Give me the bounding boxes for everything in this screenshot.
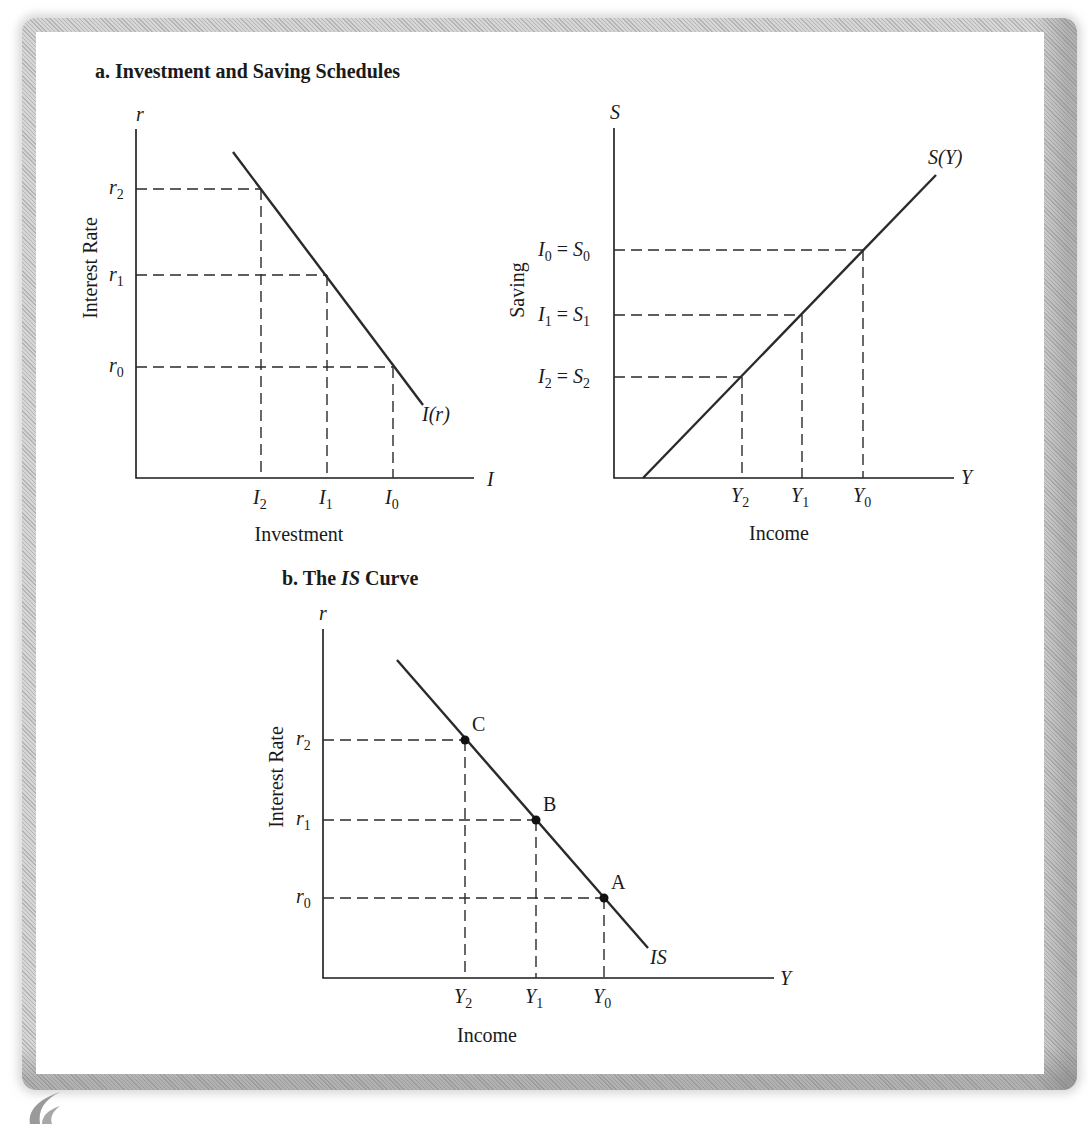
y-tick-r2: r2 xyxy=(296,727,311,753)
y-axis-label: Interest Rate xyxy=(79,217,101,319)
publisher-logo-icon xyxy=(30,1092,60,1124)
y-tick-r0: r0 xyxy=(296,885,311,911)
guide-r1-Y1 xyxy=(323,820,536,978)
panel-b-title: b. The IS Curve xyxy=(282,567,418,589)
y-tick-S2: I2 = S2 xyxy=(537,365,590,391)
point-B xyxy=(532,816,541,825)
guide-r2-I2 xyxy=(136,189,261,478)
saving-curve xyxy=(643,175,936,478)
x-tick-Y0: Y0 xyxy=(593,985,611,1011)
curve-label: I(r) xyxy=(421,403,450,426)
y-axis-symbol: S xyxy=(610,101,620,123)
y-axis-label: Interest Rate xyxy=(265,726,287,828)
x-tick-I1: I1 xyxy=(318,486,333,512)
x-tick-Y0: Y0 xyxy=(853,484,871,510)
x-tick-Y2: Y2 xyxy=(731,484,749,510)
y-tick-S0: I0 = S0 xyxy=(537,238,590,264)
guide-r2-Y2 xyxy=(323,740,465,978)
axes xyxy=(614,128,954,478)
is-curve-chart: r Y IS C B A r2 r1 r0 Y2 Y1 Y0 Income In… xyxy=(265,602,793,1046)
y-axis-symbol: r xyxy=(319,602,327,624)
is-curve xyxy=(397,660,648,948)
point-label-A: A xyxy=(611,871,626,893)
guide-S0-Y0 xyxy=(614,250,863,478)
guide-S1-Y1 xyxy=(614,315,802,478)
curve-label: IS xyxy=(649,946,667,968)
x-tick-I2: I2 xyxy=(252,486,267,512)
saving-chart: S Y S(Y) I0 = S0 I1 = S1 I2 = S2 Y2 Y1 Y… xyxy=(506,101,974,544)
y-axis-symbol: r xyxy=(136,103,144,125)
x-axis-label: Income xyxy=(749,522,809,544)
guide-r0-Y0 xyxy=(323,898,604,978)
point-label-C: C xyxy=(472,713,485,735)
y-tick-r1: r1 xyxy=(296,807,311,833)
y-tick-r2: r2 xyxy=(109,176,124,202)
x-axis-label: Income xyxy=(457,1024,517,1046)
x-tick-Y2: Y2 xyxy=(454,985,472,1011)
x-axis-symbol: Y xyxy=(780,967,793,989)
x-axis-symbol: Y xyxy=(961,466,974,488)
point-label-B: B xyxy=(543,793,556,815)
y-tick-r1: r1 xyxy=(109,263,124,289)
x-tick-Y1: Y1 xyxy=(525,985,543,1011)
figure-canvas: .ax { stroke:#1a1a1a; stroke-width:1.6; … xyxy=(0,0,1088,1124)
x-tick-Y1: Y1 xyxy=(791,484,809,510)
investment-chart: r I I(r) r2 r1 r0 I2 I1 I0 Investment In… xyxy=(79,103,495,545)
point-C xyxy=(461,736,470,745)
x-axis-symbol: I xyxy=(486,468,495,490)
y-tick-S1: I1 = S1 xyxy=(537,303,590,329)
y-tick-r0: r0 xyxy=(109,354,124,380)
axes xyxy=(136,129,474,478)
x-axis-label: Investment xyxy=(255,523,344,545)
guide-S2-Y2 xyxy=(614,377,742,478)
x-tick-I0: I0 xyxy=(384,486,399,512)
point-A xyxy=(600,894,609,903)
panel-a-title: a. Investment and Saving Schedules xyxy=(95,60,400,83)
curve-label: S(Y) xyxy=(928,146,963,169)
y-axis-label: Saving xyxy=(506,262,529,318)
guide-r0-I0 xyxy=(136,367,393,478)
guide-r1-I1 xyxy=(136,275,327,478)
